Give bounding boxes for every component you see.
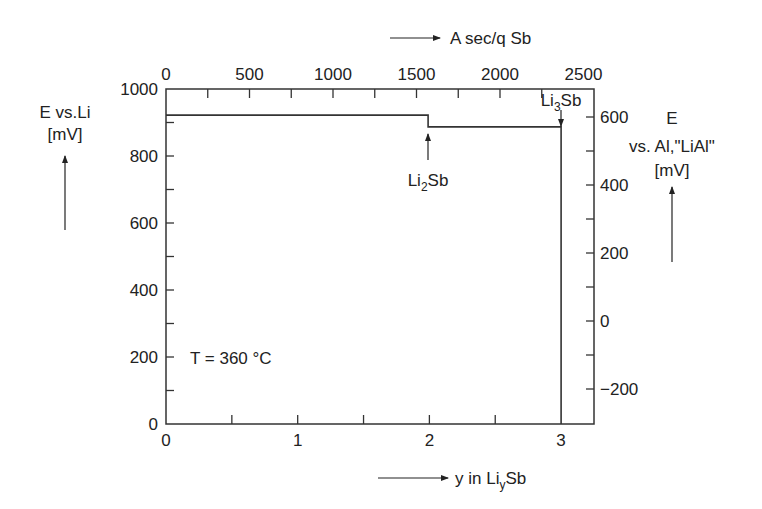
left-tick-label: 200 — [130, 348, 158, 367]
li2sb-label: Li2Sb — [408, 171, 449, 194]
left-tick-label: 0 — [149, 415, 158, 434]
top-tick-label: 0 — [161, 65, 170, 84]
right-tick-label: 400 — [600, 176, 628, 195]
left-axis-label-line1: E vs.Li — [39, 103, 90, 122]
titration-chart: 02004006008001000 6004002000−200 0500100… — [0, 0, 762, 509]
bottom-tick-label: 3 — [556, 431, 565, 450]
left-tick-label: 800 — [130, 147, 158, 166]
plot-frame — [166, 89, 594, 424]
right-axis-label-line1: E — [666, 109, 677, 128]
bottom-axis-ticks: 0123 — [161, 415, 566, 450]
bottom-tick-label: 1 — [293, 431, 302, 450]
bottom-axis-label: y in LiySb — [455, 469, 526, 492]
left-tick-label: 400 — [130, 281, 158, 300]
right-tick-label: −200 — [600, 380, 638, 399]
top-tick-label: 2500 — [565, 65, 603, 84]
bottom-tick-label: 2 — [425, 431, 434, 450]
right-axis-label-line2: vs. Al,"LiAl" — [629, 137, 715, 156]
data-series-line — [166, 115, 561, 424]
right-axis-label-line3: [mV] — [655, 161, 690, 180]
top-axis-label: A sec/q Sb — [450, 29, 531, 48]
top-axis-ticks: 05001000150020002500 — [161, 65, 602, 98]
temperature-annotation: T = 360 °C — [190, 349, 272, 368]
right-tick-label: 200 — [600, 244, 628, 263]
top-tick-label: 2000 — [481, 65, 519, 84]
top-tick-label: 1500 — [398, 65, 436, 84]
right-tick-label: 0 — [600, 312, 609, 331]
right-tick-label: 600 — [600, 108, 628, 127]
top-tick-label: 500 — [235, 65, 263, 84]
top-tick-label: 1000 — [314, 65, 352, 84]
left-tick-label: 600 — [130, 214, 158, 233]
left-tick-label: 1000 — [120, 80, 158, 99]
bottom-tick-label: 0 — [161, 431, 170, 450]
left-axis-label-line2: [mV] — [48, 125, 83, 144]
